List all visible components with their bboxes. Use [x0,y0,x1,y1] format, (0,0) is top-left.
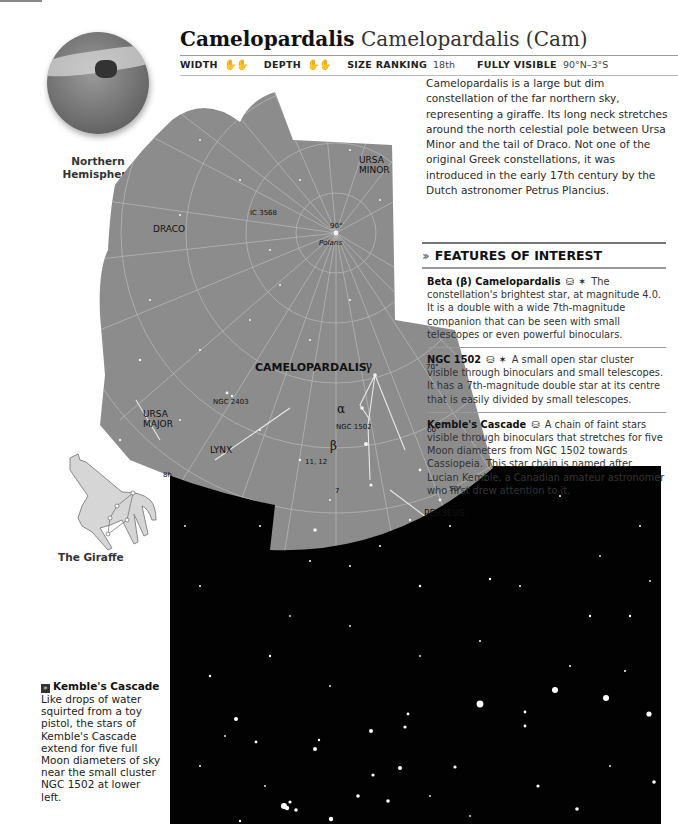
page-title: Camelopardalis Camelopardalis (Cam) [180,27,678,51]
feature-name: Kemble's Cascade [427,419,526,430]
globe-caption-line: Northern [58,155,138,168]
label-7: 7 [335,486,339,496]
photo-caption: »Kemble's Cascade Like drops of water sq… [41,680,161,803]
feature-name: NGC 1502 [427,354,481,365]
feature-divider [427,412,666,413]
label-polaris: Polaris [319,238,342,248]
label-gamma: γ [365,361,372,371]
feature-item: NGC 1502 ⛁✶ A small open star cluster vi… [422,351,666,410]
binoculars-icon: ⛁ [486,354,494,365]
header-rule [0,0,42,2]
telescope-icon: ✶ [578,276,586,287]
depth-label: DEPTH [264,59,301,70]
feature-text: A chain of faint stars visible through b… [427,419,664,496]
fully-visible-value: 90°N–3°S [563,59,609,70]
width-label: WIDTH [180,59,218,70]
chevron-right-icon: ›› [422,248,427,263]
features-top-rule [422,242,666,244]
binoculars-icon: ⛁ [566,276,574,287]
features-rule [422,267,666,269]
fully-visible-label: FULLY VISIBLE [477,59,557,70]
star-field [170,466,661,824]
feature-item: Kemble's Cascade ⛁ A chain of faint star… [422,416,666,501]
label-ngc2403: NGC 2403 [213,397,249,407]
telescope-icon: ✶ [498,354,506,365]
features-title: FEATURES OF INTEREST [435,248,602,263]
label-line: MINOR [359,165,390,175]
label-line: URSA [143,409,173,419]
constellation-highlight [95,60,117,78]
label-line: URSA [359,155,390,165]
giraffe-caption: The Giraffe [58,551,124,563]
label-ursa-major: URSA MAJOR [143,409,173,429]
label-ngc1502: NGC 1502 [336,422,372,432]
double-chevron-icon: » [41,684,50,693]
size-ranking-label: SIZE RANKING [347,59,427,70]
globe-caption: Northern Hemisphere [58,155,138,181]
label-camelopardalis: CAMELOPARDALIS [255,363,367,373]
caption-title: Kemble's Cascade [53,680,159,692]
hand-span-icon: ✋✋ [224,59,248,70]
hand-span-icon: ✋✋ [307,59,331,70]
feature-item: Beta (β) Camelopardalis ⛁✶ The constella… [422,273,666,345]
title-full: Camelopardalis (Cam) [361,27,588,51]
label-11-12: 11, 12 [305,457,327,467]
intro-paragraph: Camelopardalis is a large but dim conste… [426,76,674,198]
label-ursa-minor: URSA MINOR [359,155,390,175]
size-ranking-value: 18th [433,59,455,70]
label-beta: β [330,441,337,451]
label-8h: 8h [163,470,172,480]
features-of-interest: ›› FEATURES OF INTEREST Beta (β) Camelop… [422,242,666,501]
label-ic3568: IC 3568 [250,208,277,218]
label-90-deg: 90° [330,221,342,231]
kembles-cascade-photo [170,466,661,824]
giraffe-illustration [30,448,160,553]
globe-caption-line: Hemisphere [58,168,138,181]
feature-divider [427,347,666,348]
label-7h: 7h [216,491,225,501]
label-alpha: α [337,404,345,414]
title-block: Camelopardalis Camelopardalis (Cam) WIDT… [180,27,678,76]
label-draco: DRACO [153,224,185,234]
label-perseus: PERSEUS [424,508,465,518]
features-heading: ›› FEATURES OF INTEREST [422,248,666,263]
title-latin: Camelopardalis [180,27,355,51]
hemisphere-locator-globe [47,32,149,134]
label-line: MAJOR [143,419,173,429]
label-lynx: LYNX [210,445,232,455]
feature-name: Beta (β) Camelopardalis [427,276,561,287]
binoculars-icon: ⛁ [531,419,539,430]
stats-row: WIDTH ✋✋ DEPTH ✋✋ SIZE RANKING 18th FULL… [180,59,678,70]
caption-text: Like drops of water squirted from a toy … [41,693,160,803]
title-rule [180,55,678,56]
